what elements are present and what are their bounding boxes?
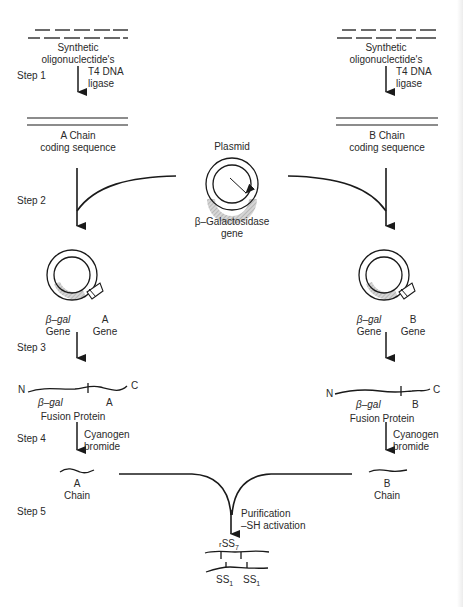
page-edge-shadow (457, 0, 463, 607)
left-insertion-arrow (77, 168, 176, 226)
right-gal-gene-label: β–gal Gene (351, 314, 387, 338)
right-fusion-gal-label: β–gal (356, 399, 381, 411)
step-5-label: Step 5 (17, 506, 46, 518)
left-fusion-protein (28, 383, 127, 393)
right-ligase-label: T4 DNA ligase (396, 66, 432, 90)
right-fusion-b-label: B (412, 399, 419, 411)
left-coding-label: A Chain coding sequence (33, 130, 123, 154)
step-4-label: Step 4 (17, 433, 46, 445)
insulin-molecule (205, 551, 269, 572)
diagram-graphics (0, 0, 463, 607)
right-fusion-protein (335, 386, 430, 396)
b-chain-label: B Chain (367, 478, 407, 502)
left-oligo-fragments (28, 30, 128, 38)
combination-arrow (119, 474, 352, 534)
beta-galactosidase-label: β–Galactosidase gene (187, 216, 277, 240)
left-oligo-label: Synthetic oligonuclectide's (38, 42, 118, 66)
a-chain-fragment (60, 469, 94, 473)
right-cleave-label: Cyanogen bromide (393, 429, 439, 453)
step-3-label: Step 3 (17, 342, 46, 354)
b-chain-fragment (369, 470, 407, 472)
right-recombinant-plasmid (359, 250, 415, 300)
right-oligo-label: Synthetic oligonuclectide's (346, 42, 426, 66)
left-recombinant-plasmid (47, 250, 103, 300)
left-coding-sequence (27, 118, 128, 125)
disulfide-top-label: rSS7 (219, 538, 239, 551)
plasmid-title: Plasmid (202, 141, 262, 153)
disulfide-bottom-left-label: SS1 (216, 574, 233, 587)
right-c-terminus: C (433, 384, 440, 396)
left-ligase-label: T4 DNA ligase (88, 66, 124, 90)
right-insertion-arrow (288, 168, 386, 226)
a-gene-label: A Gene (90, 314, 120, 338)
left-c-terminus: C (131, 380, 138, 392)
step-2-label: Step 2 (17, 195, 46, 207)
left-fusion-a-label: A (106, 397, 113, 409)
a-chain-label: A Chain (57, 478, 97, 502)
left-fusion-protein-label: Fusion Protein (33, 411, 113, 423)
disulfide-bottom-right-label: SS1 (243, 574, 260, 587)
purification-label: Purification –SH activation (241, 508, 305, 532)
left-n-terminus: N (18, 384, 25, 396)
right-coding-label: B Chain coding sequence (342, 130, 432, 154)
insulin-synthesis-diagram: Step 1 Step 2 Step 3 Step 4 Step 5 Synth… (0, 0, 463, 607)
right-n-terminus: N (326, 388, 333, 400)
left-cleave-label: Cyanogen bromide (84, 429, 130, 453)
right-fusion-protein-label: Fusion Protein (342, 413, 422, 425)
b-gene-label: B Gene (398, 314, 428, 338)
right-oligo-fragments (337, 30, 436, 38)
step-1-label: Step 1 (17, 70, 46, 82)
right-coding-sequence (336, 118, 438, 125)
left-gal-gene-label: β–gal Gene (40, 314, 76, 338)
left-fusion-gal-label: β–gal (38, 397, 63, 409)
plasmid-diagram (206, 158, 258, 224)
